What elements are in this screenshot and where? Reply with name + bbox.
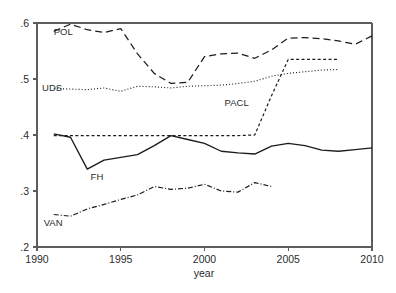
series-label-fh: FH (91, 171, 104, 182)
x-tick-label: 2005 (277, 253, 301, 265)
series-label-pol: POL (54, 26, 73, 37)
chart-figure: .2.3.4.5.6 19901995200020052010 POLUDSPA… (0, 0, 396, 293)
x-axis-title: year (194, 267, 215, 279)
x-tick-label: 2010 (360, 253, 384, 265)
y-tick-label: .3 (20, 185, 29, 197)
y-tick-label: .5 (20, 73, 29, 85)
y-tick-label: .6 (20, 17, 29, 29)
x-tick-label: 2000 (193, 253, 217, 265)
series-label-van: VAN (44, 217, 63, 228)
y-tick-label: .2 (20, 241, 29, 253)
chart-background (0, 0, 396, 293)
line-chart-canvas: .2.3.4.5.6 19901995200020052010 POLUDSPA… (0, 0, 396, 293)
series-label-pacl: PACL (225, 97, 249, 108)
y-tick-label: .4 (20, 129, 29, 141)
series-label-uds: UDS (42, 82, 62, 93)
x-tick-label: 1995 (109, 253, 133, 265)
x-tick-label: 1990 (25, 253, 49, 265)
